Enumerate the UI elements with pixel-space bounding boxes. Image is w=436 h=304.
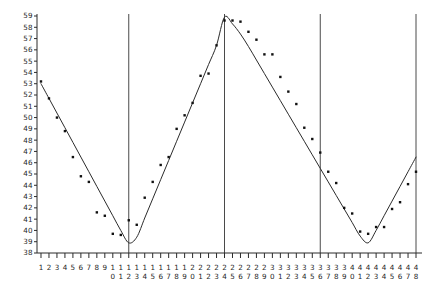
x-tick-label-15-upper: 1 bbox=[150, 263, 155, 272]
x-tick-label-44-upper: 4 bbox=[382, 263, 387, 272]
x-tick-label-11-lower: 1 bbox=[118, 272, 123, 281]
x-tick-label-8-upper: 8 bbox=[95, 263, 100, 272]
x-tick-label-13-lower: 3 bbox=[134, 272, 139, 281]
data-point bbox=[96, 211, 98, 213]
x-tick-label-31-lower: 1 bbox=[278, 272, 283, 281]
x-tick-label-10-lower: 0 bbox=[111, 272, 116, 281]
y-tick-label-52: 52 bbox=[23, 90, 32, 99]
x-tick-label-29-upper: 2 bbox=[262, 263, 267, 272]
data-point bbox=[399, 201, 401, 203]
data-point bbox=[375, 226, 377, 228]
y-tick-label-41: 41 bbox=[23, 215, 32, 224]
data-point bbox=[295, 103, 297, 105]
data-point bbox=[415, 171, 417, 173]
x-tick-label-34-lower: 4 bbox=[302, 272, 307, 281]
y-tick-label-40: 40 bbox=[23, 226, 33, 235]
y-tick-label-43: 43 bbox=[23, 192, 32, 201]
data-point bbox=[40, 80, 42, 82]
y-tick-label-50: 50 bbox=[23, 113, 33, 122]
y-axis bbox=[34, 14, 37, 253]
data-point bbox=[144, 197, 146, 199]
data-point bbox=[175, 128, 177, 130]
scatter-chart: 5958575655545352515049484746454443424140… bbox=[0, 0, 436, 304]
y-tick-label-48: 48 bbox=[23, 136, 33, 145]
x-tick-label-38-upper: 3 bbox=[334, 263, 339, 272]
x-tick-label-34-upper: 3 bbox=[302, 263, 307, 272]
x-tick-label-32-upper: 3 bbox=[286, 263, 291, 272]
data-point bbox=[391, 208, 393, 210]
x-tick-label-5-upper: 5 bbox=[71, 263, 76, 272]
x-tick-label-48-lower: 8 bbox=[414, 272, 419, 281]
data-point bbox=[351, 212, 353, 214]
data-point bbox=[56, 116, 58, 118]
x-tick-label-37-lower: 7 bbox=[326, 272, 331, 281]
x-tick-label-41-lower: 1 bbox=[358, 272, 363, 281]
x-tick-label-46-upper: 4 bbox=[398, 263, 403, 272]
data-point bbox=[215, 44, 217, 46]
data-point bbox=[207, 72, 209, 74]
x-tick-label-37-upper: 3 bbox=[326, 263, 331, 272]
x-tick-label-7-upper: 7 bbox=[87, 263, 92, 272]
y-tick-label-59: 59 bbox=[23, 11, 33, 20]
data-point bbox=[263, 53, 265, 55]
data-point bbox=[279, 76, 281, 78]
x-tick-label-41-upper: 4 bbox=[358, 263, 363, 272]
x-tick-label-12-lower: 2 bbox=[126, 272, 131, 281]
data-point bbox=[343, 207, 345, 209]
x-tick-label-23-upper: 2 bbox=[214, 263, 219, 272]
x-tick-label-22-upper: 2 bbox=[206, 263, 211, 272]
x-tick-label-19-lower: 9 bbox=[182, 272, 187, 281]
data-points bbox=[40, 19, 417, 236]
y-tick-label-39: 39 bbox=[23, 237, 33, 246]
x-tick-label-43-lower: 3 bbox=[374, 272, 379, 281]
x-tick-label-21-upper: 2 bbox=[198, 263, 203, 272]
x-tick-label-4-upper: 4 bbox=[63, 263, 68, 272]
data-point bbox=[120, 234, 122, 236]
data-point bbox=[167, 156, 169, 158]
chart-canvas: 5958575655545352515049484746454443424140… bbox=[0, 0, 436, 304]
x-tick-label-23-lower: 3 bbox=[214, 272, 219, 281]
x-tick-label-43-upper: 4 bbox=[374, 263, 379, 272]
x-tick-label-20-upper: 2 bbox=[190, 263, 195, 272]
x-tick-label-45-upper: 4 bbox=[390, 263, 395, 272]
fitted-curve bbox=[41, 16, 416, 243]
x-tick-label-35-lower: 5 bbox=[310, 272, 315, 281]
x-tick-label-11-upper: 1 bbox=[118, 263, 123, 272]
x-tick-label-48-upper: 4 bbox=[414, 263, 419, 272]
data-point bbox=[80, 175, 82, 177]
x-axis bbox=[37, 253, 422, 258]
data-point bbox=[88, 181, 90, 183]
x-tick-label-2-upper: 2 bbox=[47, 263, 52, 272]
y-tick-label-58: 58 bbox=[23, 23, 33, 32]
x-tick-label-39-lower: 9 bbox=[342, 272, 347, 281]
data-point bbox=[199, 75, 201, 77]
x-tick-label-13-upper: 1 bbox=[134, 263, 139, 272]
y-tick-label-46: 46 bbox=[23, 158, 33, 167]
x-tick-label-20-lower: 0 bbox=[190, 272, 195, 281]
x-tick-label-28-lower: 8 bbox=[254, 272, 259, 281]
x-tick-label-25-upper: 2 bbox=[230, 263, 235, 272]
x-tick-label-40-lower: 0 bbox=[350, 272, 355, 281]
reference-lines bbox=[129, 14, 416, 253]
y-tick-label-44: 44 bbox=[23, 181, 33, 190]
x-tick-label-12-upper: 1 bbox=[126, 263, 131, 272]
y-tick-label-49: 49 bbox=[23, 124, 33, 133]
y-tick-label-45: 45 bbox=[23, 169, 32, 178]
x-tick-label-26-upper: 2 bbox=[238, 263, 243, 272]
data-point bbox=[319, 151, 321, 153]
data-point bbox=[223, 19, 225, 21]
x-tick-label-40-upper: 4 bbox=[350, 263, 355, 272]
x-tick-label-16-upper: 1 bbox=[158, 263, 163, 272]
x-tick-label-30-lower: 0 bbox=[270, 272, 275, 281]
data-point bbox=[335, 182, 337, 184]
x-tick-label-10-upper: 1 bbox=[111, 263, 116, 272]
y-tick-label-47: 47 bbox=[23, 147, 32, 156]
x-tick-label-24-lower: 4 bbox=[222, 272, 227, 281]
data-point bbox=[383, 226, 385, 228]
x-tick-label-45-lower: 5 bbox=[390, 272, 395, 281]
data-point bbox=[327, 171, 329, 173]
x-tick-label-33-lower: 3 bbox=[294, 272, 299, 281]
fitted-trend-line bbox=[41, 16, 416, 243]
y-tick-labels: 5958575655545352515049484746454443424140… bbox=[23, 11, 33, 257]
x-tick-label-30-upper: 3 bbox=[270, 263, 275, 272]
